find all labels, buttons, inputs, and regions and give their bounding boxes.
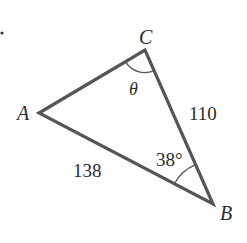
stray-dot [0, 31, 3, 34]
side-label-bc: 110 [189, 103, 217, 124]
angle-label-38: 38° [156, 149, 183, 170]
vertex-label-a: A [15, 102, 30, 124]
triangle-abc [39, 50, 213, 204]
angle-label-theta: θ [129, 79, 138, 99]
side-label-ab: 138 [73, 160, 102, 181]
triangle-diagram: C A B θ 38° 110 138 [0, 0, 247, 243]
vertex-label-c: C [139, 26, 153, 48]
vertex-label-b: B [220, 202, 232, 224]
